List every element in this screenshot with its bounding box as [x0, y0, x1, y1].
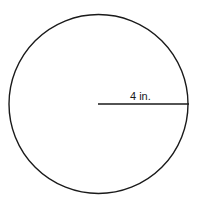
radius-label: 4 in.	[130, 90, 151, 102]
circle-diagram: 4 in.	[0, 0, 201, 209]
